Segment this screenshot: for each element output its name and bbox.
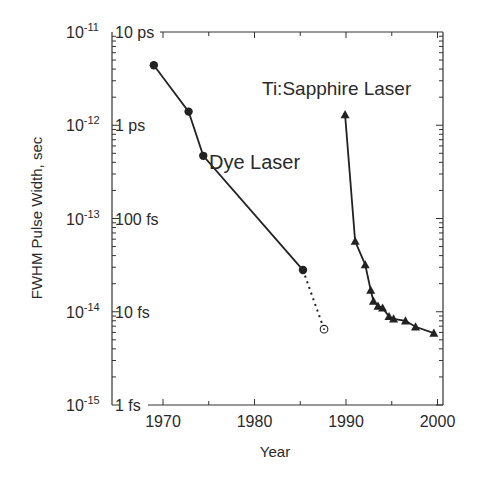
data-point-dye-laser <box>184 107 192 115</box>
data-point-ti-sapphire-laser <box>341 110 350 118</box>
data-point-ti-sapphire-laser <box>369 297 378 305</box>
data-point-dye-laser <box>199 152 207 160</box>
chart: 10-1110 ps10-121 ps10-13100 fs10-1410 fs… <box>0 0 479 477</box>
series-group <box>150 61 439 337</box>
y-tick-label-exponent: -15 <box>84 394 100 406</box>
x-axis-label: Year <box>260 443 290 460</box>
y-tick-label-base: 10 <box>66 397 84 414</box>
data-point-dye-laser <box>299 266 307 274</box>
x-tick-label: 1990 <box>328 413 364 430</box>
series-line-ti-sapphire-laser <box>345 115 434 333</box>
annotation-ti-sapphire-laser: Ti:Sapphire Laser <box>262 78 412 99</box>
y-tick-label-exponent: -12 <box>84 114 100 126</box>
data-point-ti-sapphire-laser <box>361 260 370 268</box>
y-tick-inner-label: 100 fs <box>115 211 159 228</box>
y-tick-label-exponent: -11 <box>84 21 99 33</box>
data-point-dye-laser <box>150 61 158 69</box>
y-tick-label: 10-15 <box>66 394 100 414</box>
y-axis-label: FWHM Pulse Width, sec <box>28 136 45 299</box>
x-tick-label: 2000 <box>420 413 456 430</box>
y-tick-label-base: 10 <box>66 211 84 228</box>
y-tick-inner-label: 1 fs <box>115 397 141 414</box>
y-tick-label-base: 10 <box>66 24 84 41</box>
y-tick-label-base: 10 <box>66 117 84 134</box>
y-tick-inner-label: 10 ps <box>115 24 154 41</box>
data-point-ti-sapphire-laser <box>351 237 360 245</box>
x-tick-label: 1980 <box>237 413 273 430</box>
y-tick-label: 10-11 <box>66 21 99 41</box>
data-point-center-dye-laser-extension <box>323 328 325 330</box>
y-tick-label: 10-14 <box>66 301 100 321</box>
y-tick-label-exponent: -14 <box>84 301 100 313</box>
y-tick-label-base: 10 <box>66 304 84 321</box>
series-line-dye-laser-extension <box>303 270 324 329</box>
data-point-ti-sapphire-laser <box>366 286 375 294</box>
y-tick-label: 10-12 <box>66 114 100 134</box>
annotation-dye-laser: Dye Laser <box>209 151 300 173</box>
data-point-ti-sapphire-laser <box>411 322 420 330</box>
y-tick-inner-label: 1 ps <box>115 117 145 134</box>
x-tick-label: 1970 <box>145 413 181 430</box>
y-tick-label-exponent: -13 <box>84 208 100 220</box>
y-tick-label: 10-13 <box>66 208 100 228</box>
y-tick-inner-label: 10 fs <box>115 304 150 321</box>
